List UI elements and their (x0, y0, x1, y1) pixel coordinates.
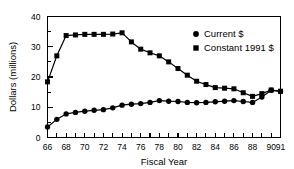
data-point-marker (120, 30, 125, 35)
data-point-marker (278, 89, 283, 94)
data-point-marker (185, 73, 190, 78)
data-point-marker (231, 98, 236, 103)
data-point-marker (231, 86, 236, 91)
data-point-marker (110, 105, 115, 110)
legend-label: Current $ (204, 28, 244, 39)
data-point-marker (203, 100, 208, 105)
y-axis-tick-label: 0 (36, 133, 41, 143)
data-point-marker (101, 32, 106, 37)
x-axis-tick-label: 72 (99, 142, 109, 152)
x-axis-tick-label: 74 (117, 142, 127, 152)
data-point-marker (129, 102, 134, 107)
data-point-marker (222, 86, 227, 91)
data-point-marker (175, 66, 180, 71)
data-point-marker (241, 90, 246, 95)
x-axis-tick-label: 88 (248, 142, 258, 152)
x-axis-tick-label: 90 (266, 142, 276, 152)
data-point-marker (175, 99, 180, 104)
y-axis-tick-label: 40 (31, 12, 41, 22)
data-point-marker (110, 32, 115, 37)
x-axis-tick-label: 86 (229, 142, 239, 152)
data-point-marker (91, 108, 96, 113)
x-axis-tick-label: 78 (155, 142, 165, 152)
x-axis-title: Fiscal Year (141, 156, 187, 167)
x-axis-tick-label: 70 (80, 142, 90, 152)
data-point-marker (54, 117, 59, 122)
data-point-marker (73, 110, 78, 115)
data-point-marker (157, 53, 162, 58)
data-point-marker (138, 47, 143, 52)
x-axis-tick-label: 84 (211, 142, 221, 152)
data-point-marker (92, 32, 97, 37)
data-point-marker (45, 79, 50, 84)
data-point-marker (213, 85, 218, 90)
y-axis-tick-label: 30 (31, 42, 41, 52)
data-point-marker (119, 102, 124, 107)
data-point-marker (45, 124, 50, 129)
x-axis-tick-label: 76 (136, 142, 146, 152)
data-point-marker (194, 79, 199, 84)
data-point-marker (250, 100, 255, 105)
data-point-marker (101, 107, 106, 112)
data-point-marker (222, 99, 227, 104)
y-axis-tick-label: 20 (31, 72, 41, 82)
data-point-marker (166, 59, 171, 64)
data-point-marker (166, 99, 171, 104)
data-point-marker (82, 108, 87, 113)
x-axis-tick-label: 91 (276, 142, 286, 152)
x-axis-tick-label: 82 (192, 142, 202, 152)
chart-container: 0102030406668707274767880828486889091Fis… (0, 0, 294, 169)
data-point-marker (250, 94, 255, 99)
data-point-marker (213, 99, 218, 104)
data-point-marker (147, 100, 152, 105)
data-point-marker (138, 101, 143, 106)
data-point-marker (269, 88, 274, 93)
data-point-marker (129, 39, 134, 44)
legend-marker-circle (193, 31, 199, 37)
series-line-0 (48, 90, 281, 127)
y-axis-title: Dollars (millions) (7, 42, 18, 112)
data-point-marker (203, 82, 208, 87)
data-point-marker (82, 32, 87, 37)
legend-marker-square (193, 45, 198, 50)
data-point-marker (194, 100, 199, 105)
data-point-marker (63, 111, 68, 116)
data-point-marker (157, 98, 162, 103)
data-point-marker (73, 32, 78, 37)
data-point-marker (54, 53, 59, 58)
data-point-marker (185, 100, 190, 105)
data-point-marker (241, 99, 246, 104)
data-point-marker (64, 33, 69, 38)
x-axis-tick-label: 68 (61, 142, 71, 152)
data-point-marker (148, 50, 153, 55)
y-axis-tick-label: 10 (31, 102, 41, 112)
line-chart: 0102030406668707274767880828486889091Fis… (0, 0, 294, 169)
data-point-marker (259, 91, 264, 96)
x-axis-tick-label: 66 (43, 142, 53, 152)
legend-label: Constant 1991 $ (204, 42, 274, 53)
x-axis-tick-label: 80 (173, 142, 183, 152)
